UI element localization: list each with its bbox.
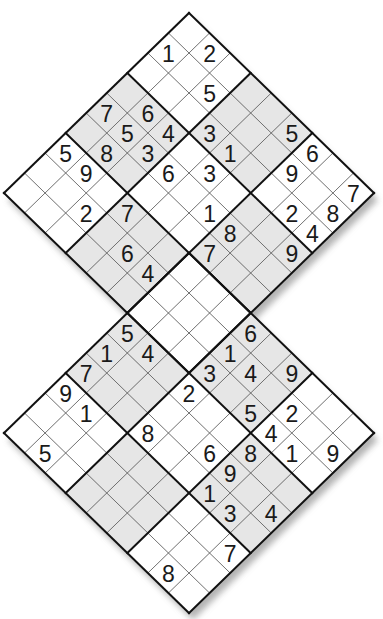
given-digit: 1 (100, 341, 113, 367)
given-digit: 5 (39, 441, 52, 467)
given-digit: 5 (203, 81, 216, 107)
given-digit: 2 (285, 401, 298, 427)
given-digit: 6 (203, 441, 216, 467)
given-digit: 8 (327, 201, 340, 227)
given-digit: 5 (121, 321, 134, 347)
given-digit: 2 (80, 201, 93, 227)
given-digit: 5 (285, 121, 298, 147)
given-digit: 1 (203, 481, 216, 507)
given-digit: 4 (265, 421, 278, 447)
given-digit: 7 (80, 361, 93, 387)
given-digit: 4 (306, 221, 319, 247)
given-digit: 4 (141, 341, 154, 367)
given-digit: 2 (203, 41, 216, 67)
given-digit: 4 (265, 501, 278, 527)
given-digit: 3 (141, 141, 154, 167)
given-digit: 7 (100, 101, 113, 127)
given-digit: 1 (224, 341, 237, 367)
given-digit: 5 (244, 401, 257, 427)
given-digit: 9 (224, 461, 237, 487)
given-digit: 3 (203, 121, 216, 147)
given-digit: 7 (121, 201, 134, 227)
given-digit: 8 (141, 421, 154, 447)
given-digit: 9 (327, 441, 340, 467)
given-digit: 8 (162, 561, 175, 587)
given-digit: 3 (203, 361, 216, 387)
given-digit: 6 (141, 101, 154, 127)
given-digit: 3 (203, 161, 216, 187)
given-digit: 1 (80, 401, 93, 427)
given-digit: 6 (306, 141, 319, 167)
given-digit: 7 (347, 181, 360, 207)
given-digit: 6 (121, 241, 134, 267)
given-digit: 9 (80, 161, 93, 187)
given-digit: 3 (224, 501, 237, 527)
given-digit: 7 (203, 241, 216, 267)
given-digit: 8 (244, 441, 257, 467)
given-digit: 4 (162, 121, 175, 147)
bottom-grid (4, 253, 374, 613)
given-digit: 1 (224, 141, 237, 167)
given-digit: 4 (244, 361, 257, 387)
given-digit: 8 (224, 221, 237, 247)
given-digit: 1 (285, 441, 298, 467)
given-digit: 4 (141, 261, 154, 287)
given-digit: 9 (59, 381, 72, 407)
twin-sudoku-board: 2157654835963156397271288467945147923161… (0, 0, 383, 619)
given-digit: 6 (162, 161, 175, 187)
given-digit: 5 (59, 141, 72, 167)
given-digit: 8 (100, 141, 113, 167)
given-digit: 9 (285, 241, 298, 267)
given-digit: 5 (121, 121, 134, 147)
given-digit: 1 (203, 201, 216, 227)
given-digit: 9 (285, 361, 298, 387)
given-digit: 2 (285, 201, 298, 227)
given-digit: 2 (183, 381, 196, 407)
given-digit: 1 (162, 41, 175, 67)
given-digit: 7 (224, 541, 237, 567)
given-digit: 9 (285, 161, 298, 187)
given-digit: 6 (244, 321, 257, 347)
